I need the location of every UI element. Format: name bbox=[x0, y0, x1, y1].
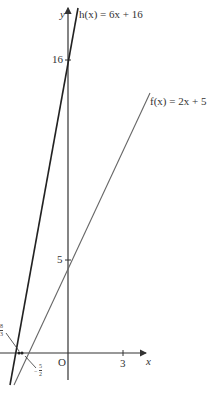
h-intercept-label: − 8 3 bbox=[0, 323, 3, 337]
origin-label: O bbox=[58, 357, 66, 368]
f-intercept-label: − 5 2 bbox=[39, 363, 42, 377]
x-axis-label: x bbox=[146, 356, 151, 367]
h-function-label: h(x) = 6x + 16 bbox=[79, 9, 143, 20]
y-tick-16-label: 16 bbox=[52, 54, 63, 65]
h-intercept-point bbox=[18, 352, 21, 355]
line-f bbox=[14, 93, 150, 385]
f-function-label: f(x) = 2x + 5 bbox=[150, 96, 206, 107]
y-axis-label: y bbox=[60, 9, 65, 20]
function-graph bbox=[0, 0, 213, 398]
y-tick-5-label: 5 bbox=[57, 254, 63, 265]
x-tick-3-label: 3 bbox=[120, 358, 126, 369]
pointer-f-intercept bbox=[25, 356, 36, 368]
f-intercept-point bbox=[21, 352, 24, 355]
